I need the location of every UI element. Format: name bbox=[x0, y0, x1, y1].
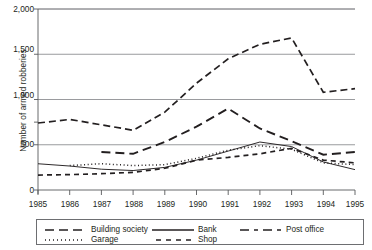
y-tick-label: 1,500 bbox=[0, 45, 34, 54]
legend-swatch-bank bbox=[152, 225, 194, 235]
y-axis-tick-labels: 2,000 1,500 1,000 500 0 bbox=[0, 0, 34, 250]
series-line-post-office bbox=[38, 38, 355, 130]
plot-area bbox=[0, 0, 372, 250]
legend-label: Bank bbox=[198, 225, 217, 235]
y-tick-label: 2,000 bbox=[0, 5, 34, 14]
x-tick-label: 1985 bbox=[21, 199, 55, 209]
x-tick-label: 1990 bbox=[181, 199, 215, 209]
legend-label: Building society bbox=[91, 225, 148, 235]
legend-swatch-garage bbox=[45, 235, 87, 245]
x-tick-label: 1986 bbox=[53, 199, 87, 209]
chart-container: Number of armed robberies 2,000 1,500 1,… bbox=[0, 0, 372, 250]
y-tick-label: 500 bbox=[0, 140, 34, 149]
x-tick-label: 1988 bbox=[117, 199, 151, 209]
x-tick-label: 1987 bbox=[85, 199, 119, 209]
x-tick-label: 1989 bbox=[149, 199, 183, 209]
series-line-shop bbox=[38, 148, 355, 175]
y-tick-label: 0 bbox=[0, 186, 34, 195]
legend-label: Garage bbox=[91, 235, 118, 245]
x-tick-label: 1995 bbox=[338, 199, 372, 209]
x-tick-label: 1993 bbox=[277, 199, 311, 209]
legend-label: Post office bbox=[286, 225, 324, 235]
y-tick-label: 1,000 bbox=[0, 91, 34, 100]
x-tick-label: 1992 bbox=[245, 199, 279, 209]
legend-swatch-building-society bbox=[45, 225, 87, 235]
legend-label: Shop bbox=[198, 235, 217, 245]
series-line-building-society bbox=[101, 109, 355, 155]
chart-legend: Building society Bank Post office Garage bbox=[36, 219, 364, 245]
x-tick-label: 1991 bbox=[213, 199, 247, 209]
legend-swatch-shop bbox=[152, 235, 194, 245]
legend-swatch-post-office bbox=[240, 225, 282, 235]
